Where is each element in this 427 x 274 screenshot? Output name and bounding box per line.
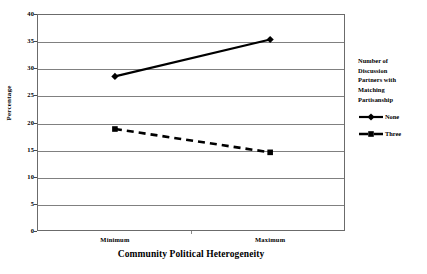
gridline bbox=[38, 178, 344, 179]
x-axis-title: Community Political Heterogeneity bbox=[37, 249, 345, 259]
legend-swatch-square bbox=[358, 129, 384, 139]
gridline bbox=[38, 96, 344, 97]
legend-swatch-diamond bbox=[358, 112, 384, 122]
y-axis-title: Percentage bbox=[5, 63, 13, 143]
y-axis-tick-label: 40 bbox=[4, 11, 34, 18]
legend-label: Three bbox=[385, 130, 401, 137]
x-axis-tick-label: Maximum bbox=[225, 236, 315, 243]
legend-title: Number ofDiscussionPartners withMatching… bbox=[358, 56, 427, 105]
gridline bbox=[38, 42, 344, 43]
legend-title-line: Discussion bbox=[358, 66, 427, 76]
y-axis-tick-label: 15 bbox=[4, 146, 34, 153]
gridline bbox=[38, 151, 344, 152]
plot-area bbox=[37, 14, 345, 231]
x-axis-tick-label: Minimum bbox=[70, 236, 160, 243]
y-axis-tick-label: 0 bbox=[4, 228, 34, 235]
legend-title-line: Number of bbox=[358, 56, 427, 66]
y-axis-tick-mark bbox=[34, 231, 37, 232]
legend-entry-none[interactable]: None bbox=[358, 112, 427, 122]
legend-title-line: Partners with bbox=[358, 75, 427, 85]
gridline bbox=[38, 124, 344, 125]
legend-entry-three[interactable]: Three bbox=[358, 129, 427, 139]
x-axis-tick-mark bbox=[191, 231, 192, 234]
y-axis-tick-label: 10 bbox=[4, 174, 34, 181]
chart-figure: 0510152025303540 Percentage MinimumMaxim… bbox=[0, 0, 427, 274]
gridline bbox=[38, 69, 344, 70]
legend-label: None bbox=[385, 113, 399, 120]
legend-title-line: Matching bbox=[358, 85, 427, 95]
legend-entries: NoneThree bbox=[358, 112, 427, 139]
legend-title-line: Partisanship bbox=[358, 95, 427, 105]
y-axis-tick-label: 5 bbox=[4, 201, 34, 208]
gridline bbox=[38, 205, 344, 206]
chart-legend: Number ofDiscussionPartners withMatching… bbox=[358, 56, 427, 139]
y-axis-tick-label: 35 bbox=[4, 38, 34, 45]
